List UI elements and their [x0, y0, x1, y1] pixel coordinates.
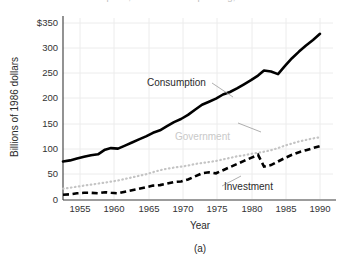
y-axis-ticks: $350 300 250 200 150 100 50 0 [37, 17, 58, 205]
x-tick-1965: 1965 [138, 203, 159, 214]
series-line-government [63, 137, 320, 188]
figure-caption: (a) [194, 243, 206, 254]
x-tick-1955: 1955 [69, 203, 90, 214]
x-tick-1970: 1970 [172, 203, 193, 214]
y-tick-300: 300 [42, 42, 58, 53]
y-tick-100: 100 [42, 143, 58, 154]
y-axis-title: Billions of 1986 dollars [9, 57, 20, 157]
x-axis-ticks: 1955 1960 1965 1970 1975 1980 1985 1990 [69, 203, 330, 214]
y-tick-150: 150 [42, 118, 58, 129]
y-tick-350: $350 [37, 17, 58, 28]
series-label-government: Government [175, 131, 230, 142]
y-tick-0: 0 [53, 194, 58, 205]
series-label-investment: Investment [224, 181, 273, 192]
figure-panel: Consumption, Government Spending, and Pr… [0, 0, 342, 263]
y-tick-250: 250 [42, 67, 58, 78]
x-axis-title: Year [190, 220, 211, 231]
x-tick-1960: 1960 [103, 203, 124, 214]
x-tick-1975: 1975 [206, 203, 227, 214]
line-chart: $350 300 250 200 150 100 50 0 1955 1960 … [0, 0, 342, 263]
x-tick-1980: 1980 [241, 203, 262, 214]
x-tick-1985: 1985 [275, 203, 296, 214]
x-tick-1990: 1990 [309, 203, 330, 214]
series-label-consumption: Consumption [147, 77, 206, 88]
y-tick-50: 50 [47, 168, 58, 179]
y-tick-200: 200 [42, 92, 58, 103]
grid-vertical [80, 18, 320, 199]
